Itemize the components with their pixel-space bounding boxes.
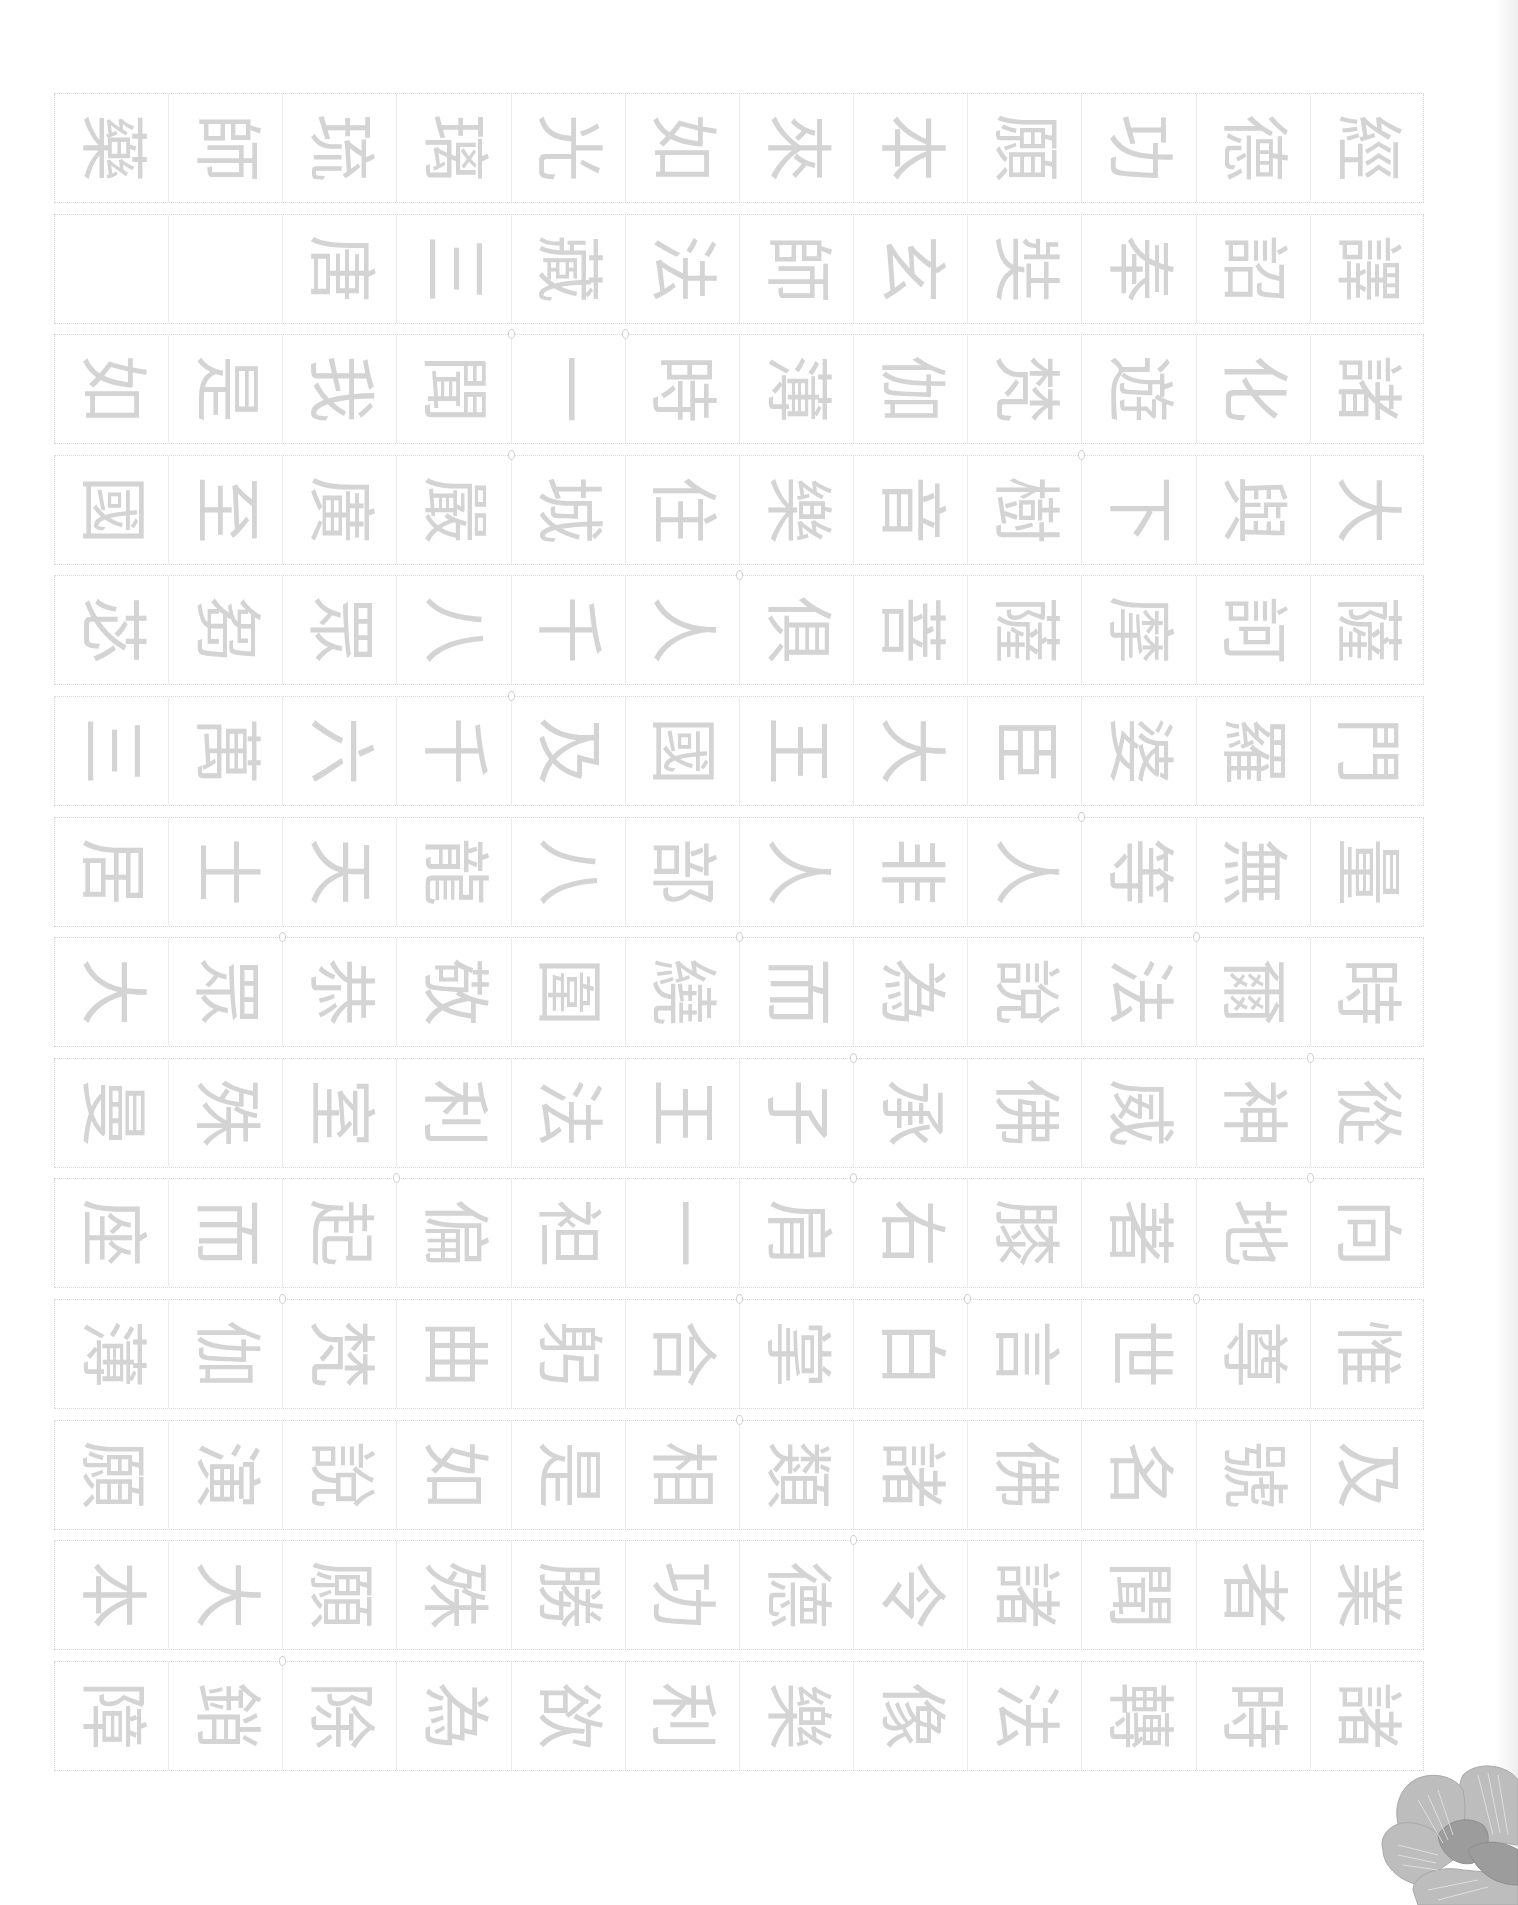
grid-marker-icon (1078, 450, 1085, 460)
trace-character: 大 (877, 717, 945, 785)
trace-character: 城 (534, 476, 602, 544)
tracing-cell: 遊 (1081, 335, 1195, 443)
trace-character: 訶 (1219, 596, 1287, 664)
trace-character: 繞 (648, 958, 716, 1026)
tracing-cell: 苾 (54, 576, 168, 684)
tracing-cell: 非 (853, 818, 967, 926)
grid-row: 障銷除為欲利樂像法轉時諸 (54, 1661, 1424, 1771)
tracing-cell: 向 (1310, 1179, 1424, 1287)
trace-character: 薄 (78, 1320, 146, 1388)
tracing-cell: 八 (511, 818, 625, 926)
trace-character: 王 (763, 717, 831, 785)
tracing-cell: 伽 (168, 1300, 282, 1408)
grid-marker-icon (1078, 812, 1085, 822)
trace-character: 威 (1105, 1079, 1173, 1147)
trace-character: 士 (192, 838, 260, 906)
tracing-cell: 千 (511, 576, 625, 684)
tracing-cell: 袒 (511, 1179, 625, 1287)
trace-character: 芻 (192, 596, 260, 664)
trace-character: 師 (192, 114, 260, 182)
grid-marker-icon (508, 450, 515, 460)
grid-marker-icon (508, 691, 515, 701)
trace-character: 至 (192, 476, 260, 544)
trace-character: 三 (78, 717, 146, 785)
tracing-cell: 薩 (967, 576, 1081, 684)
trace-character: 譯 (1333, 235, 1401, 303)
tracing-cell: 萬 (168, 697, 282, 805)
tracing-cell: 師 (168, 94, 282, 202)
grid-marker-icon (1193, 1294, 1200, 1304)
trace-character: 本 (78, 1561, 146, 1629)
trace-character: 人 (991, 838, 1059, 906)
trace-character: 量 (1333, 838, 1401, 906)
trace-character: 八 (534, 838, 602, 906)
tracing-cell: 本 (853, 94, 967, 202)
tracing-cell: 從 (1310, 1059, 1424, 1167)
grid-row: 曼殊室利法王子承佛威神從 (54, 1058, 1424, 1168)
tracing-cell: 銷 (168, 1662, 282, 1770)
trace-character: 向 (1333, 1199, 1401, 1267)
tracing-cell: 右 (853, 1179, 967, 1287)
tracing-cell: 佛 (967, 1421, 1081, 1529)
trace-character: 掌 (763, 1320, 831, 1388)
tracing-cell: 敬 (396, 938, 510, 1046)
trace-character: 人 (763, 838, 831, 906)
grid-marker-icon (279, 932, 286, 942)
trace-character: 門 (1333, 717, 1401, 785)
tracing-cell: 八 (396, 576, 510, 684)
trace-character: 天 (306, 838, 374, 906)
tracing-cell: 承 (853, 1059, 967, 1167)
trace-character: 袒 (534, 1199, 602, 1267)
trace-character: 薩 (991, 596, 1059, 664)
tracing-cell: 聞 (396, 335, 510, 443)
trace-character: 本 (877, 114, 945, 182)
grid-marker-icon (393, 1173, 400, 1183)
trace-character: 藏 (534, 235, 602, 303)
trace-character: 璃 (420, 114, 488, 182)
tracing-cell: 時 (1310, 938, 1424, 1046)
trace-character: 是 (192, 355, 260, 423)
tracing-cell: 佛 (967, 1059, 1081, 1167)
tracing-cell: 圍 (511, 938, 625, 1046)
tracing-cell: 大 (853, 697, 967, 805)
trace-character: 合 (648, 1320, 716, 1388)
tracing-cell: 掌 (739, 1300, 853, 1408)
trace-character: 玄 (877, 235, 945, 303)
trace-character: 說 (991, 958, 1059, 1026)
tracing-cell: 薩 (1310, 576, 1424, 684)
trace-character: 名 (1105, 1441, 1173, 1509)
tracing-cell: 芻 (168, 576, 282, 684)
trace-character: 德 (763, 1561, 831, 1629)
trace-character: 下 (1105, 476, 1173, 544)
trace-character: 如 (78, 355, 146, 423)
trace-character: 敬 (420, 958, 488, 1026)
grid-marker-icon (736, 570, 743, 580)
trace-character: 等 (1105, 838, 1173, 906)
trace-character: 樂 (763, 1682, 831, 1750)
tracing-cell: 大 (168, 1541, 282, 1649)
trace-character: 法 (534, 1079, 602, 1147)
trace-character: 法 (648, 235, 716, 303)
trace-character: 諸 (991, 1561, 1059, 1629)
trace-character: 及 (534, 717, 602, 785)
trace-character: 嚴 (420, 476, 488, 544)
tracing-cell: 神 (1196, 1059, 1310, 1167)
trace-character: 唐 (306, 235, 374, 303)
trace-character: 法 (1105, 958, 1173, 1026)
tracing-cell: 及 (511, 697, 625, 805)
trace-character: 躬 (534, 1320, 602, 1388)
tracing-cell: 法 (625, 215, 739, 323)
trace-character: 為 (420, 1682, 488, 1750)
tracing-cell: 人 (967, 818, 1081, 926)
trace-character: 人 (648, 596, 716, 664)
trace-character: 惟 (1333, 1320, 1401, 1388)
grid-row: 唐三藏法師玄奘奉詔譯 (54, 214, 1424, 324)
tracing-cell: 肩 (739, 1179, 853, 1287)
trace-character: 苾 (78, 596, 146, 664)
grid-marker-icon (279, 1656, 286, 1666)
tracing-cell: 功 (1081, 94, 1195, 202)
trace-character: 殊 (420, 1561, 488, 1629)
trace-character: 王 (648, 1079, 716, 1147)
tracing-cell: 言 (967, 1300, 1081, 1408)
tracing-cell: 是 (511, 1421, 625, 1529)
